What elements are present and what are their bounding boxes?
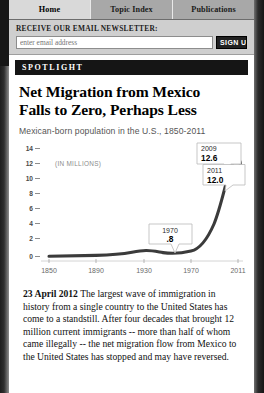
callout-2009-value: 12.6 [201,153,218,163]
nav-tabbar: Home Topic Index Publications [9,0,254,20]
ytick-10: 10 [26,175,34,182]
ytick-0: 0 [29,253,33,260]
tab-publications[interactable]: Publications [173,0,254,19]
headline-line-1: Net Migration from Mexico [19,83,244,101]
chart-subtitle: Mexican-born population in the U.S., 185… [15,119,248,136]
signup-button-label: SIGN UP [220,39,247,46]
newsletter-label: RECEIVE OUR EMAIL NEWSLETTER: [16,24,247,33]
page-left-edge-shadow [0,0,9,66]
xtick-1970: 1970 [183,267,199,274]
callout-1970-value: .8 [167,234,174,244]
article-headline: Net Migration from Mexico Falls to Zero,… [15,75,248,119]
article-dateline: 23 April 2012 [23,288,78,299]
xtick-1890: 1890 [88,267,104,274]
callout-2011-year: 2011 [207,167,222,174]
article-body-text: The largest wave of immigration in histo… [23,288,236,362]
email-input[interactable] [16,36,213,49]
ytick-14: 14 [26,145,34,152]
tab-topic-index[interactable]: Topic Index [91,0,173,19]
tab-publications-label: Publications [191,5,235,14]
ytick-2: 2 [29,235,33,242]
callout-1970-year: 1970 [162,227,178,234]
article-body: 23 April 2012 The largest wave of immigr… [15,282,248,364]
migration-line-chart: 14 12 10 8 6 4 2 0 [19,140,244,282]
tab-home-label: Home [39,5,60,14]
callout-1970: 1970 .8 [149,224,192,253]
ytick-4: 4 [29,220,33,227]
spotlight-article: SPOTLIGHT Net Migration from Mexico Fall… [15,60,248,364]
browser-page: Home Topic Index Publications RECEIVE OU… [0,0,264,393]
spotlight-kicker: SPOTLIGHT [15,60,248,75]
signup-button[interactable]: SIGN UP [216,36,247,49]
chart-x-axis: 1850 1890 1930 1970 2011 [41,259,246,274]
newsletter-signup: RECEIVE OUR EMAIL NEWSLETTER: SIGN UP [9,20,254,55]
chart-svg: 14 12 10 8 6 4 2 0 [19,140,248,282]
chart-units-note: (IN MILLIONS) [55,160,101,168]
chart-y-axis: 14 12 10 8 6 4 2 0 [26,145,40,260]
xtick-1930: 1930 [136,267,152,274]
newsletter-row: SIGN UP [16,36,247,49]
tab-topic-index-label: Topic Index [110,5,152,14]
xtick-1850: 1850 [41,267,57,274]
callout-2011-value: 12.0 [207,175,224,185]
tab-home[interactable]: Home [9,0,91,19]
xtick-2011: 2011 [230,267,245,274]
callout-2009-year: 2009 [201,145,217,152]
ytick-6: 6 [29,205,33,212]
ytick-12: 12 [26,160,34,167]
ytick-8: 8 [29,190,33,197]
page-right-edge [254,0,264,393]
headline-line-2: Falls to Zero, Perhaps Less [19,101,244,119]
page-content: Home Topic Index Publications RECEIVE OU… [9,0,254,393]
